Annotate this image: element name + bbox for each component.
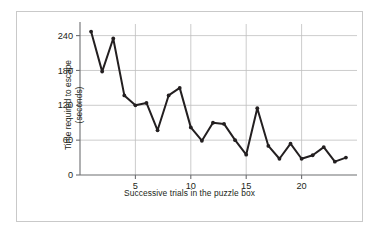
data-point	[189, 125, 193, 129]
data-line-escape-time	[91, 32, 346, 162]
chart-frame: 0601201802405101520 Time required to esc…	[16, 11, 363, 222]
data-point	[122, 94, 126, 98]
data-point	[145, 101, 149, 105]
data-point	[156, 128, 160, 132]
data-point	[344, 156, 348, 160]
x-axis-title: Successive trials in the puzzle box	[17, 188, 362, 198]
data-point	[211, 121, 215, 125]
data-point	[278, 157, 282, 161]
y-axis-title: Time required to escape (seconds)	[39, 30, 63, 180]
data-point	[178, 86, 182, 90]
data-point	[200, 139, 204, 143]
data-point	[111, 37, 115, 41]
data-point	[222, 122, 226, 126]
chart-figure: 0601201802405101520 Time required to esc…	[0, 0, 380, 234]
data-point	[244, 153, 248, 157]
data-point	[311, 153, 315, 157]
data-point	[333, 160, 337, 164]
data-point	[134, 103, 138, 107]
data-point	[100, 70, 104, 74]
data-point	[289, 142, 293, 146]
data-point	[300, 157, 304, 161]
data-point	[89, 30, 93, 34]
data-point	[255, 106, 259, 110]
y-axis-title-line2: (seconds)	[74, 30, 85, 180]
data-point	[233, 138, 237, 142]
data-point	[322, 145, 326, 149]
y-axis-title-line1: Time required to escape	[63, 30, 74, 180]
data-point	[266, 144, 270, 148]
data-point	[167, 94, 171, 98]
